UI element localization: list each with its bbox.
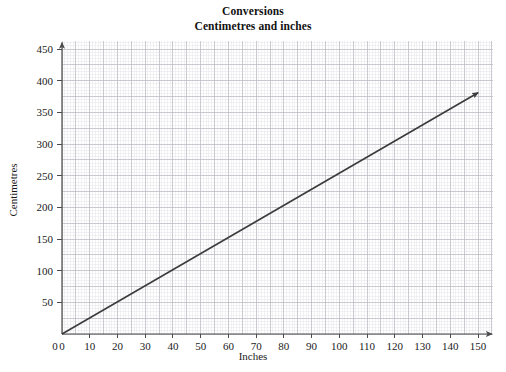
svg-text:200: 200	[37, 201, 54, 213]
svg-text:50: 50	[42, 296, 54, 308]
svg-text:400: 400	[37, 75, 54, 87]
grid-minor-lines	[62, 41, 493, 334]
svg-text:100: 100	[37, 265, 54, 277]
svg-text:250: 250	[37, 170, 54, 182]
conversion-chart: Conversions Centimetres and inches 01020…	[0, 0, 506, 372]
y-axis-title-wrap: Centimetres	[2, 120, 24, 260]
plot-area: 0102030405060708090100110120130140150501…	[0, 0, 506, 372]
svg-text:350: 350	[37, 106, 54, 118]
x-axis-title: Inches	[0, 350, 506, 362]
svg-text:300: 300	[37, 138, 54, 150]
y-axis-title: Centimetres	[7, 120, 19, 260]
svg-text:150: 150	[37, 233, 54, 245]
svg-text:450: 450	[37, 43, 54, 55]
grid-major-lines	[62, 41, 493, 334]
